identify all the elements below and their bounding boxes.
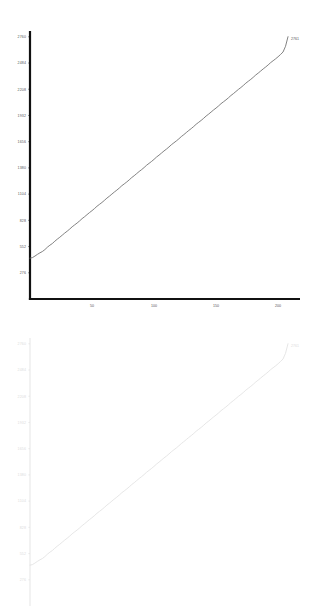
series-end-value-label: 2761 (291, 37, 299, 41)
y-axis-tick-label: 1656 (18, 140, 26, 144)
y-axis-tick-label: 2484 (18, 61, 26, 65)
x-axis-tick-label: 200 (275, 304, 281, 308)
y-axis-tick-label: 2760 (18, 342, 26, 346)
y-axis-tick-label: 1104 (18, 192, 26, 196)
y-axis-tick-label: 1932 (18, 421, 26, 425)
y-axis-tick-label: 1380 (18, 166, 26, 170)
line-chart-primary: 2765528281104138016561932220824842760501… (0, 0, 315, 318)
y-axis-tick-label: 2484 (18, 368, 26, 372)
x-axis-tick-label: 50 (90, 304, 94, 308)
plot-area: 2765528281104138016561932220824842760501… (0, 0, 315, 318)
plot-area: 2765528281104138016561932220824842760276… (0, 318, 315, 606)
y-axis-tick-label: 1380 (18, 473, 26, 477)
y-axis-tick-label: 552 (20, 552, 26, 556)
series-end-value-label: 2761 (291, 344, 299, 348)
y-axis-tick-label: 828 (20, 526, 26, 530)
x-axis-tick-label: 150 (213, 304, 219, 308)
y-axis-tick-label: 2208 (18, 88, 26, 92)
y-axis-tick-label: 1656 (18, 447, 26, 451)
y-axis-tick-label: 2208 (18, 395, 26, 399)
y-axis-tick-label: 2760 (18, 35, 26, 39)
data-line-cumulative (30, 344, 288, 565)
x-axis-tick-label: 100 (151, 304, 157, 308)
y-axis-tick-label: 1932 (18, 114, 26, 118)
line-chart-faded-duplicate: 2765528281104138016561932220824842760276… (0, 318, 315, 606)
y-axis-tick-label: 276 (20, 578, 26, 582)
y-axis-tick-label: 276 (20, 271, 26, 275)
y-axis-tick-label: 828 (20, 219, 26, 223)
y-axis-tick-label: 552 (20, 245, 26, 249)
y-axis-tick-label: 1104 (18, 499, 26, 503)
data-line-cumulative (30, 37, 288, 258)
